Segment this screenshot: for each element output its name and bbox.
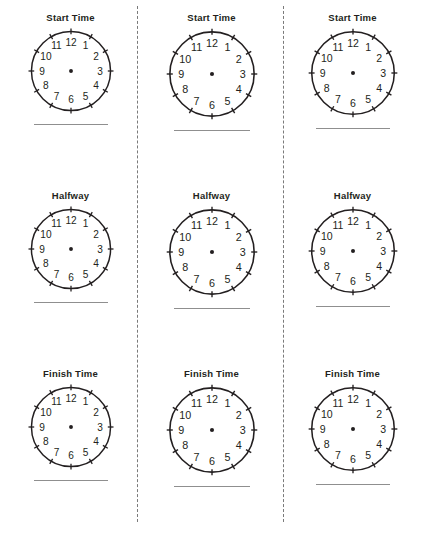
clock-svg: 121234567891011 [163,25,261,123]
clock-center-dot [209,72,213,76]
answer-line[interactable] [174,130,250,131]
clock-cell-halfway-2: Halfway 121234567891011 [141,178,282,356]
clock-numeral-5: 5 [82,91,88,102]
clock-center-dot [350,249,354,253]
clock-numeral-8: 8 [43,258,49,269]
clock-numeral-1: 1 [82,40,88,51]
clock-numeral-9: 9 [178,246,184,258]
clock-numeral-3: 3 [380,423,386,435]
clock-numeral-9: 9 [319,67,325,79]
clock-center-dot [209,250,213,254]
clock-numeral-10: 10 [40,229,52,240]
clock-center-dot [69,69,73,73]
clock-numeral-12: 12 [206,215,218,227]
clock-numeral-2: 2 [235,409,241,421]
clock-numeral-3: 3 [380,245,386,257]
clock-numeral-6: 6 [350,97,356,109]
clock-numeral-12: 12 [206,37,218,49]
clock-numeral-6: 6 [350,275,356,287]
clock-cell-halfway-3: Halfway 121234567891011 [282,178,423,356]
answer-line[interactable] [174,308,250,309]
clock-numeral-8: 8 [182,261,188,273]
clock-label: Start Time [187,12,235,23]
clock-numeral-6: 6 [209,99,215,111]
clock-numeral-4: 4 [376,438,382,450]
clock-numeral-11: 11 [51,40,62,51]
clock-numeral-8: 8 [182,439,188,451]
clock-face-halfway-3[interactable]: 121234567891011 [305,203,401,299]
clock-numeral-5: 5 [224,451,230,463]
clock-face-start-time-3[interactable]: 121234567891011 [305,25,401,121]
clock-face-finish-time-2[interactable]: 121234567891011 [163,381,261,479]
clock-numeral-11: 11 [190,41,201,53]
clock-numeral-10: 10 [320,52,332,64]
clock-face-halfway-2[interactable]: 121234567891011 [163,203,261,301]
clock-svg: 121234567891011 [305,203,401,299]
clock-numeral-9: 9 [178,68,184,80]
clock-numeral-5: 5 [82,269,88,280]
clock-numeral-5: 5 [82,447,88,458]
answer-line[interactable] [174,486,250,487]
clock-numeral-7: 7 [193,273,199,285]
clock-numeral-11: 11 [190,397,201,409]
clock-label: Finish Time [184,368,239,379]
clock-svg: 121234567891011 [163,203,261,301]
clock-numeral-11: 11 [190,219,201,231]
answer-line[interactable] [34,124,108,125]
clock-numeral-8: 8 [43,80,49,91]
clock-numeral-12: 12 [347,393,359,405]
clock-numeral-1: 1 [224,41,230,53]
clock-numeral-11: 11 [51,218,62,229]
clock-face-start-time-2[interactable]: 121234567891011 [163,25,261,123]
clock-numeral-4: 4 [376,260,382,272]
clock-numeral-1: 1 [82,396,88,407]
clock-face-start-time-1[interactable]: 121234567891011 [25,25,117,117]
answer-line[interactable] [316,484,390,485]
clock-label: Halfway [334,190,371,201]
clock-numeral-6: 6 [209,277,215,289]
clock-numeral-1: 1 [365,397,371,409]
clock-numeral-10: 10 [320,408,332,420]
clock-numeral-10: 10 [179,409,191,421]
clock-numeral-4: 4 [235,83,241,95]
clock-center-dot [209,428,213,432]
answer-line[interactable] [34,480,108,481]
clock-numeral-5: 5 [365,271,371,283]
clock-numeral-12: 12 [347,215,359,227]
clock-numeral-6: 6 [350,453,356,465]
clock-face-finish-time-1[interactable]: 121234567891011 [25,381,117,473]
clock-numeral-10: 10 [40,51,52,62]
clock-svg: 121234567891011 [163,381,261,479]
clock-numeral-8: 8 [323,438,329,450]
clock-svg: 121234567891011 [25,203,117,295]
clock-center-dot [350,71,354,75]
clock-cell-start-time-3: Start Time 121234567891011 [282,0,423,178]
clock-numeral-3: 3 [239,68,245,80]
clock-numeral-11: 11 [332,41,343,53]
answer-line[interactable] [316,306,390,307]
clock-cell-finish-time-1: Finish Time 121234567891011 [0,356,141,534]
clock-numeral-4: 4 [235,261,241,273]
clock-numeral-9: 9 [319,245,325,257]
clock-numeral-10: 10 [179,231,191,243]
clock-numeral-5: 5 [365,93,371,105]
clock-numeral-11: 11 [332,219,343,231]
clock-numeral-1: 1 [224,397,230,409]
clock-numeral-2: 2 [376,230,382,242]
clock-face-halfway-1[interactable]: 121234567891011 [25,203,117,295]
clock-numeral-12: 12 [65,37,77,48]
clock-numeral-1: 1 [365,219,371,231]
answer-line[interactable] [316,128,390,129]
clock-numeral-2: 2 [93,229,99,240]
clock-numeral-4: 4 [235,439,241,451]
clock-numeral-3: 3 [97,66,103,77]
clock-face-finish-time-3[interactable]: 121234567891011 [305,381,401,477]
clock-numeral-1: 1 [82,218,88,229]
clock-numeral-3: 3 [239,246,245,258]
clock-center-dot [69,425,73,429]
clock-svg: 121234567891011 [305,381,401,477]
clock-numeral-7: 7 [334,449,340,461]
clock-numeral-10: 10 [320,230,332,242]
clock-numeral-6: 6 [209,455,215,467]
answer-line[interactable] [34,302,108,303]
